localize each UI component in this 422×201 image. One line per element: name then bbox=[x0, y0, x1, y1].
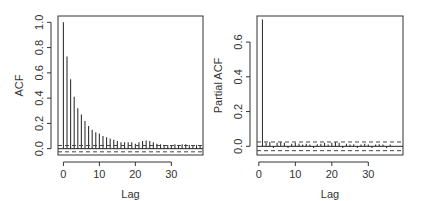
y-tick-label: 0.6 bbox=[232, 34, 244, 49]
x-axis: 0102030 bbox=[60, 162, 177, 180]
y-axis: 0.00.20.40.6 bbox=[232, 34, 250, 154]
y-tick-label: 0.8 bbox=[33, 40, 45, 55]
x-tick-label: 20 bbox=[129, 168, 141, 180]
x-tick-label: 0 bbox=[256, 168, 262, 180]
x-tick-label: 20 bbox=[326, 168, 338, 180]
y-axis: 0.00.20.40.60.81.0 bbox=[33, 15, 51, 157]
x-axis-label: Lag bbox=[121, 188, 139, 200]
y-tick-label: 0.2 bbox=[33, 116, 45, 131]
y-tick-label: 0.0 bbox=[232, 139, 244, 154]
x-axis: 0102030 bbox=[256, 162, 375, 180]
plot-frame bbox=[257, 16, 403, 155]
x-tick-label: 0 bbox=[60, 168, 66, 180]
plot-frame bbox=[58, 16, 203, 155]
y-tick-label: 1.0 bbox=[33, 15, 45, 30]
y-tick-label: 0.6 bbox=[33, 65, 45, 80]
y-tick-label: 0.0 bbox=[33, 141, 45, 156]
x-tick-label: 10 bbox=[93, 168, 105, 180]
x-axis-label: Lag bbox=[321, 188, 339, 200]
x-tick-label: 30 bbox=[165, 168, 177, 180]
y-axis-label: Partial ACF bbox=[212, 57, 224, 113]
stems bbox=[262, 19, 390, 148]
acf-plot: 0102030Lag0.00.20.40.60.81.0ACF bbox=[0, 0, 211, 201]
acf-pacf-figure: 0102030Lag0.00.20.40.60.81.0ACF 0102030L… bbox=[0, 0, 422, 201]
y-tick-label: 0.4 bbox=[232, 69, 244, 84]
stems bbox=[63, 22, 200, 148]
x-tick-label: 10 bbox=[289, 168, 301, 180]
pacf-plot: 0102030Lag0.00.20.40.6Partial ACF bbox=[211, 0, 422, 201]
x-tick-label: 30 bbox=[362, 168, 374, 180]
y-axis-label: ACF bbox=[13, 74, 25, 96]
y-tick-label: 0.2 bbox=[232, 104, 244, 119]
y-tick-label: 0.4 bbox=[33, 90, 45, 105]
